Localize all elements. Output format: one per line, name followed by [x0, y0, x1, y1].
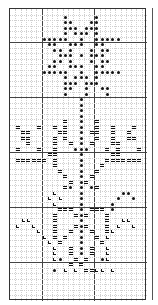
stitch-cell	[89, 141, 94, 147]
dot-symbol-icon	[90, 60, 93, 63]
dash-symbol-icon	[132, 137, 136, 140]
dot-symbol-icon	[101, 43, 104, 46]
minor-gridline-horizontal	[10, 15, 147, 16]
stitch-cell	[15, 147, 20, 153]
dot-symbol-icon	[80, 142, 83, 145]
l-symbol-icon	[106, 247, 109, 250]
dash-symbol-icon	[84, 181, 88, 184]
stitch-cell	[110, 207, 115, 213]
dash-symbol-icon	[63, 186, 67, 189]
dash-symbol-icon	[53, 219, 57, 222]
dot-symbol-icon	[80, 192, 83, 195]
dot-symbol-icon	[85, 76, 88, 79]
stitch-cell	[68, 229, 73, 235]
l-symbol-icon	[64, 269, 67, 272]
dot-symbol-icon	[117, 38, 120, 41]
dot-symbol-icon	[90, 186, 93, 189]
dash-symbol-icon	[63, 137, 67, 140]
dash-symbol-icon	[137, 148, 141, 151]
dot-symbol-icon	[43, 38, 46, 41]
dot-symbol-icon	[74, 65, 77, 68]
l-symbol-icon	[53, 192, 56, 195]
dot-symbol-icon	[64, 71, 67, 74]
dot-symbol-icon	[95, 43, 98, 46]
dot-symbol-icon	[59, 71, 62, 74]
dot-symbol-icon	[85, 82, 88, 85]
dot-symbol-icon	[95, 27, 98, 30]
dot-symbol-icon	[64, 76, 67, 79]
stitch-cell	[57, 240, 62, 246]
dot-symbol-icon	[101, 38, 104, 41]
minor-gridline-horizontal	[10, 284, 147, 285]
stitch-cell	[110, 229, 115, 235]
dot-symbol-icon	[95, 32, 98, 35]
dash-symbol-icon	[95, 120, 99, 123]
stitch-cell	[26, 141, 31, 147]
stitch-cell	[84, 257, 89, 263]
l-symbol-icon	[117, 225, 120, 228]
stitch-cell	[42, 158, 47, 164]
stitch-cell	[79, 42, 84, 48]
dot-symbol-icon	[101, 60, 104, 63]
dash-symbol-icon	[90, 247, 94, 250]
dash-symbol-icon	[58, 241, 62, 244]
stitch-cell	[94, 136, 99, 142]
dash-symbol-icon	[37, 159, 41, 162]
stitch-cell	[131, 136, 136, 142]
dash-symbol-icon	[121, 159, 125, 162]
dash-symbol-icon	[84, 214, 88, 217]
dot-symbol-icon	[80, 32, 83, 35]
dash-symbol-icon	[132, 159, 136, 162]
dot-symbol-icon	[59, 38, 62, 41]
dot-symbol-icon	[101, 49, 104, 52]
dash-symbol-icon	[63, 131, 67, 134]
stitch-cell	[105, 59, 110, 65]
dot-symbol-icon	[80, 71, 83, 74]
dot-symbol-icon	[80, 131, 83, 134]
dot-symbol-icon	[48, 38, 51, 41]
dot-symbol-icon	[85, 93, 88, 96]
l-symbol-icon	[106, 258, 109, 261]
dash-symbol-icon	[69, 230, 73, 233]
dash-symbol-icon	[95, 137, 99, 140]
dot-symbol-icon	[69, 87, 72, 90]
dot-symbol-icon	[106, 87, 109, 90]
dot-symbol-icon	[106, 60, 109, 63]
dot-symbol-icon	[80, 225, 83, 228]
stitch-cell	[73, 81, 78, 87]
dash-symbol-icon	[26, 142, 30, 145]
dash-symbol-icon	[53, 164, 57, 167]
dash-symbol-icon	[132, 126, 136, 129]
dot-symbol-icon	[80, 159, 83, 162]
dash-symbol-icon	[26, 137, 30, 140]
dot-symbol-icon	[80, 65, 83, 68]
dot-symbol-icon	[80, 126, 83, 129]
l-symbol-icon	[106, 236, 109, 239]
dot-symbol-icon	[90, 82, 93, 85]
dot-symbol-icon	[53, 269, 56, 272]
dash-symbol-icon	[74, 214, 78, 217]
dash-symbol-icon	[53, 159, 57, 162]
dot-symbol-icon	[111, 71, 114, 74]
dot-symbol-icon	[43, 71, 46, 74]
stitch-cell	[52, 268, 57, 274]
dot-symbol-icon	[80, 219, 83, 222]
stitch-cell	[68, 185, 73, 191]
dot-symbol-icon	[64, 21, 67, 24]
dash-symbol-icon	[105, 159, 109, 162]
dash-symbol-icon	[37, 148, 41, 151]
dot-symbol-icon	[53, 65, 56, 68]
dash-symbol-icon	[53, 137, 57, 140]
minor-gridline-horizontal	[10, 26, 147, 27]
dot-symbol-icon	[101, 71, 104, 74]
dot-symbol-icon	[74, 32, 77, 35]
stitch-cell	[94, 169, 99, 175]
dash-symbol-icon	[63, 126, 67, 129]
dash-symbol-icon	[69, 181, 73, 184]
stitch-cell	[131, 196, 136, 202]
dash-symbol-icon	[95, 208, 99, 211]
l-symbol-icon	[43, 236, 46, 239]
dot-symbol-icon	[95, 82, 98, 85]
dash-symbol-icon	[116, 159, 120, 162]
dot-symbol-icon	[80, 164, 83, 167]
